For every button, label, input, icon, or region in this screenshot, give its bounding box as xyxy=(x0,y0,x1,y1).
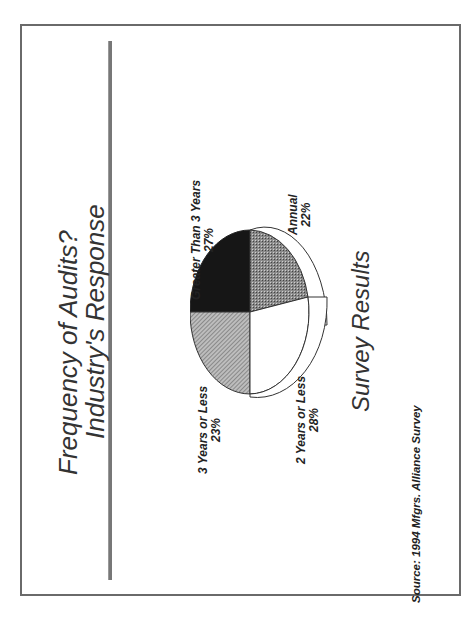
label-pct: 23% xyxy=(210,386,223,474)
label-pct: 27% xyxy=(203,180,216,300)
label-pct: 28% xyxy=(308,376,321,464)
source-note: Source: 1994 Mfgrs. Alliance Survey xyxy=(410,405,422,603)
pie-slice-3-years-or-less xyxy=(190,312,250,394)
label-pct: 22% xyxy=(300,194,313,235)
label-greater-than-3-years: Greater Than 3 Years 27% xyxy=(190,180,216,300)
chart-subtitle: Survey Results xyxy=(347,251,375,412)
slide-title-line2: Industry's Response xyxy=(80,204,111,439)
label-3-years-or-less: 3 Years or Less 23% xyxy=(197,386,223,474)
label-2-years-or-less: 2 Years or Less 28% xyxy=(295,376,321,464)
label-annual: Annual 22% xyxy=(287,194,313,235)
